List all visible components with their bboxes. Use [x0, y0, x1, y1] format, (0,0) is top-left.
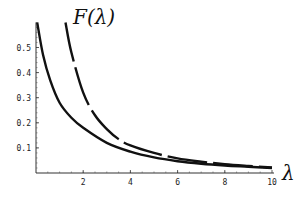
x-tick-label: 8 [222, 178, 227, 187]
y-tick-label: 0.5 [17, 44, 32, 53]
y-tick-label: 0.2 [17, 119, 32, 128]
x-tick-label: 2 [81, 178, 86, 187]
y-tick-label: 0.4 [17, 69, 32, 78]
x-axis-title: λ [281, 161, 295, 185]
data-series [37, 22, 272, 168]
x-tick-label: 10 [267, 178, 277, 187]
y-tick-label: 0.3 [17, 94, 32, 103]
y-axis-title: F(λ) [72, 5, 115, 29]
y-tick-label: 0.1 [17, 144, 32, 153]
solid-curve [37, 22, 272, 168]
dashed-curve [66, 22, 273, 167]
x-tick-label: 6 [175, 178, 180, 187]
chart: 246810 0.10.20.30.40.5 F(λ) λ [0, 0, 303, 201]
x-tick-label: 4 [128, 178, 133, 187]
axes [36, 22, 274, 173]
